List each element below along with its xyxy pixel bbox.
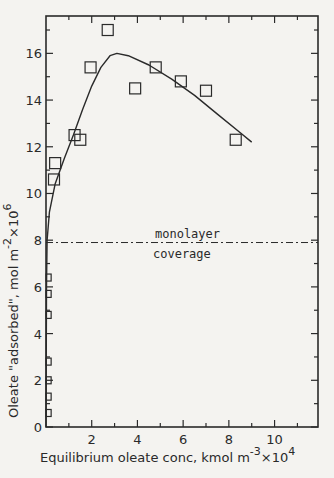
y-tick-label: 16: [25, 46, 42, 61]
fitted-curve: [46, 53, 252, 427]
x-tick-label: 8: [225, 432, 233, 447]
x-tick-label: 4: [133, 432, 141, 447]
y-tick-label: 4: [34, 327, 42, 342]
y-tick-label: 8: [34, 233, 42, 248]
data-point-square: [46, 393, 51, 400]
plot-frame: [46, 16, 318, 427]
monolayer-coverage-line: monolayercoverage: [46, 227, 318, 261]
data-point-square: [46, 409, 51, 416]
y-tick-label: 12: [25, 140, 42, 155]
x-tick-label: 10: [266, 432, 283, 447]
y-tick-label: 10: [25, 186, 42, 201]
data-point-square: [130, 83, 141, 94]
data-point-square: [50, 158, 61, 169]
x-tick-label: 2: [88, 432, 96, 447]
y-tick-label: 14: [25, 93, 42, 108]
data-point-square: [102, 25, 113, 36]
y-tick-label: 6: [34, 280, 42, 295]
x-axis-title: Equilibrium oleate conc, kmol m-3×104: [40, 445, 295, 465]
data-points: [46, 25, 241, 417]
monolayer-label: monolayer: [155, 227, 220, 241]
x-tick-label: 6: [179, 432, 187, 447]
data-point-square: [230, 134, 241, 145]
y-tick-label: 2: [34, 373, 42, 388]
y-tick-label: 0: [34, 420, 42, 435]
y-axis-title: Oleate "adsorbed", mol m-2×106: [1, 204, 21, 418]
adsorption-chart: 0246810121416 246810 monolayercoverage E…: [0, 0, 334, 478]
data-point-square: [201, 85, 212, 96]
coverage-label: coverage: [153, 247, 211, 261]
data-point-square: [85, 62, 96, 73]
